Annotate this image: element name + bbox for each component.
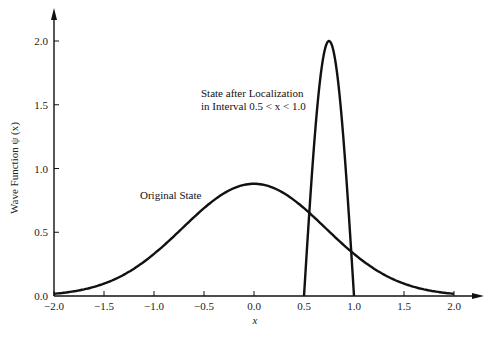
- original-state-curve: [54, 184, 454, 294]
- x-tick-label: 2.0: [447, 300, 461, 312]
- localized-state-label-line2: in Interval 0.5 < x < 1.0: [201, 100, 306, 112]
- x-tick-label: 0.0: [247, 300, 261, 312]
- x-tick-label: 1.5: [397, 300, 411, 312]
- x-tick-label: −0.5: [194, 300, 214, 312]
- y-axis-label: Wave Function ψ (x): [8, 122, 21, 214]
- localized-state-label-line1: State after Localization: [201, 87, 304, 99]
- x-axis-label: x: [252, 314, 258, 326]
- wave-function-chart: −2.0−1.5−1.0−0.50.00.51.01.52.0 0.00.51.…: [0, 0, 492, 337]
- y-tick-label: 0.0: [34, 290, 48, 302]
- x-tick-label: 1.0: [347, 300, 361, 312]
- y-tick-label: 1.0: [34, 163, 48, 175]
- x-tick-label: 0.5: [297, 300, 311, 312]
- axes: [51, 8, 484, 299]
- y-tick-label: 1.5: [34, 99, 48, 111]
- x-tick-label: −1.0: [144, 300, 164, 312]
- y-tick-label: 2.0: [34, 35, 48, 47]
- localized-state-curve: [304, 41, 354, 296]
- y-tick-label: 0.5: [34, 226, 48, 238]
- x-tick-label: −1.5: [94, 300, 114, 312]
- y-axis-arrow-icon: [51, 8, 57, 20]
- original-state-label: Original State: [140, 189, 202, 201]
- y-ticks: 0.00.51.01.52.0: [34, 35, 59, 302]
- x-axis-arrow-icon: [472, 293, 484, 299]
- x-ticks: −2.0−1.5−1.0−0.50.00.51.01.52.0: [44, 291, 461, 312]
